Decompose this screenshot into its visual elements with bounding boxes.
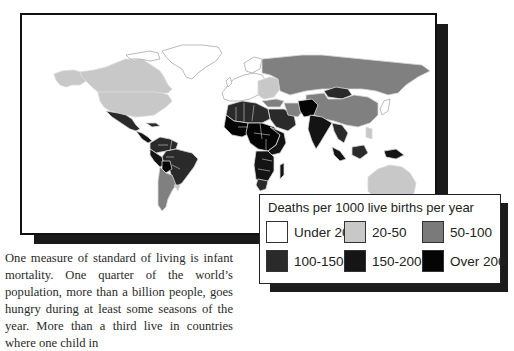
region-se-asia <box>332 123 348 143</box>
region-scandinavia <box>244 57 262 73</box>
legend-swatch <box>422 221 444 243</box>
legend-swatch <box>344 250 366 272</box>
region-caribbean <box>146 123 160 127</box>
legend-label: 150-200 <box>372 254 422 269</box>
legend-item-150-200: 150-200 <box>344 250 422 272</box>
legend-label: Under 20 <box>294 225 350 240</box>
legend-label: 100-150 <box>294 254 344 269</box>
legend-label: 50-100 <box>450 225 492 240</box>
region-philippines <box>366 127 372 139</box>
legend-item-100-150: 100-150 <box>266 250 344 272</box>
legend-item-under-20: Under 20 <box>266 221 350 243</box>
caption-text: One measure of standard of living is inf… <box>5 250 233 351</box>
region-turkey <box>262 99 284 107</box>
region-madagascar <box>280 163 284 179</box>
region-new-guinea <box>384 149 404 159</box>
legend-swatch <box>266 221 288 243</box>
region-central-america <box>136 131 152 143</box>
legend-item-20-50: 20-50 <box>344 221 407 243</box>
region-europe-east <box>258 77 280 99</box>
legend-swatch <box>422 250 444 272</box>
caption-paragraph: One measure of standard of living is inf… <box>5 250 233 351</box>
legend-label: Over 200 <box>450 254 506 269</box>
region-south-africa <box>256 179 268 191</box>
map-legend: Deaths per 1000 live births per year Und… <box>259 194 501 284</box>
legend-item-50-100: 50-100 <box>422 221 492 243</box>
legend-title: Deaths per 1000 live births per year <box>268 200 474 215</box>
legend-swatch <box>266 250 288 272</box>
region-uruguay <box>174 185 180 191</box>
legend-item-over-200: Over 200 <box>422 250 506 272</box>
region-sumatra <box>332 147 346 161</box>
region-greenland <box>162 45 222 79</box>
region-borneo <box>352 145 368 159</box>
legend-swatch <box>344 221 366 243</box>
region-japan <box>380 99 390 115</box>
legend-label: 20-50 <box>372 225 407 240</box>
region-canada <box>80 59 172 93</box>
